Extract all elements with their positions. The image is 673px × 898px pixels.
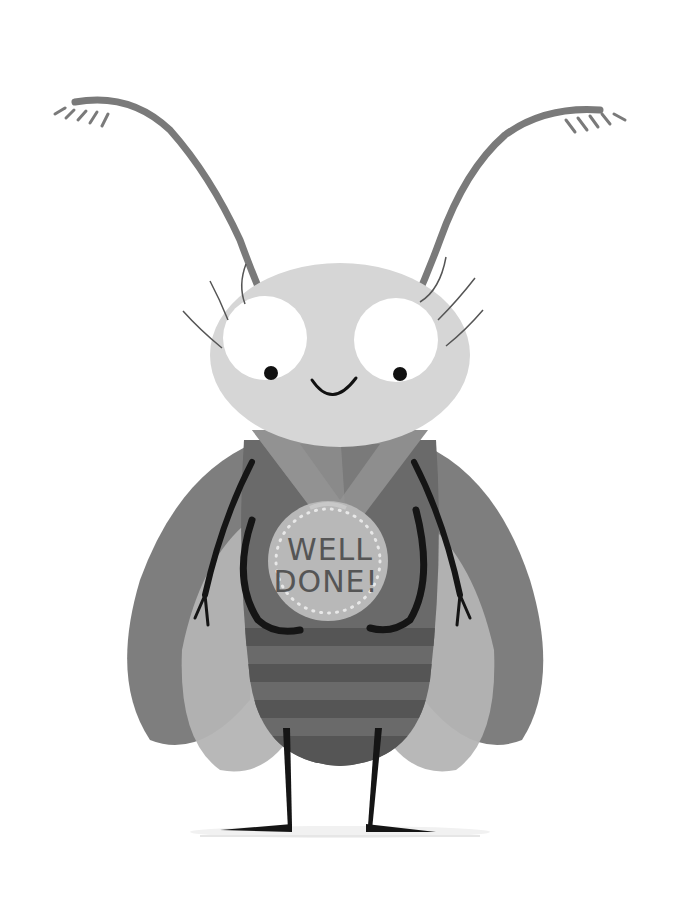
medal: WELL DONE! [268,501,388,621]
medal-text-line1: WELL [287,532,373,567]
ground-shadow [190,826,490,838]
fly-illustration: WELL DONE! [0,0,673,898]
fly-head [183,257,483,447]
medal-text-line2: DONE! [273,564,378,599]
illustration-canvas: WELL DONE! [0,0,673,898]
pupil-right [393,367,407,381]
pupil-left [264,366,278,380]
eye-left [223,296,307,380]
